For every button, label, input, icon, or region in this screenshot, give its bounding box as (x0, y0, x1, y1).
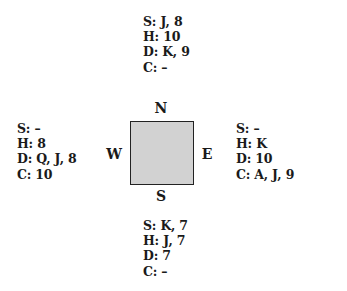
south-diamonds: D: 7 (143, 248, 188, 263)
east-hearts: H: K (236, 136, 294, 151)
east-spades: S: – (236, 121, 294, 136)
south-hearts: H: J, 7 (143, 233, 188, 248)
west-diamonds: D: Q, J, 8 (17, 151, 77, 166)
compass-west-label: W (104, 146, 124, 162)
north-diamonds: D: K, 9 (143, 44, 190, 59)
compass-south-label: S (151, 188, 171, 204)
north-clubs: C: – (143, 60, 190, 75)
south-hand: S: K, 7 H: J, 7 D: 7 C: – (143, 218, 188, 279)
compass-north-label: N (151, 100, 171, 116)
west-hearts: H: 8 (17, 136, 77, 151)
east-diamonds: D: 10 (236, 151, 294, 166)
south-clubs: C: – (143, 264, 188, 279)
compass-east-label: E (197, 146, 217, 162)
north-spades: S: J, 8 (143, 14, 190, 29)
south-spades: S: K, 7 (143, 218, 188, 233)
north-hand: S: J, 8 H: 10 D: K, 9 C: – (143, 14, 190, 75)
north-hearts: H: 10 (143, 29, 190, 44)
west-spades: S: – (17, 121, 77, 136)
east-clubs: C: A, J, 9 (236, 167, 294, 182)
east-hand: S: – H: K D: 10 C: A, J, 9 (236, 121, 294, 182)
west-clubs: C: 10 (17, 167, 77, 182)
west-hand: S: – H: 8 D: Q, J, 8 C: 10 (17, 121, 77, 182)
card-table (130, 121, 194, 185)
